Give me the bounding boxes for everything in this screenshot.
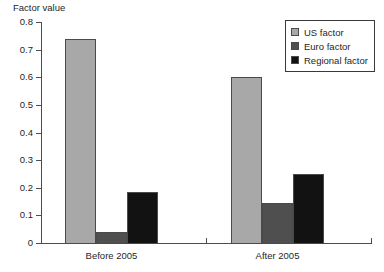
x-axis-group-separator-tick xyxy=(206,238,207,244)
bar-euro-factor-before-2005 xyxy=(96,232,127,244)
y-axis-tick-mark xyxy=(36,105,41,106)
y-axis-tick-label: 0.2 xyxy=(0,183,33,193)
y-axis-tick-label: 0.8 xyxy=(0,17,33,27)
legend-label-euro-factor: Euro factor xyxy=(304,41,350,52)
legend-item-regional-factor: Regional factor xyxy=(291,53,368,67)
y-axis-tick-mark xyxy=(36,50,41,51)
bar-regional-factor-before-2005 xyxy=(127,192,158,244)
y-axis-tick-label: 0.4 xyxy=(0,128,33,138)
legend-swatch-icon-euro-factor xyxy=(291,42,299,50)
y-axis-tick-label: 0.6 xyxy=(0,72,33,82)
legend-swatch-icon-us-factor xyxy=(291,28,299,36)
x-axis-label-after-2005: After 2005 xyxy=(228,250,328,261)
bar-chart: Factor value 00.10.20.30.40.50.60.70.8 B… xyxy=(0,0,384,272)
bar-us-factor-after-2005 xyxy=(231,77,262,244)
x-axis-label-before-2005: Before 2005 xyxy=(62,250,162,261)
y-axis-tick-mark xyxy=(36,160,41,161)
y-axis-tick-mark xyxy=(36,243,41,244)
bar-us-factor-before-2005 xyxy=(65,39,96,244)
legend-item-us-factor: US factor xyxy=(291,25,368,39)
y-axis-tick-label: 0.3 xyxy=(0,155,33,165)
y-axis-tick-mark xyxy=(36,188,41,189)
x-axis-end-tick xyxy=(371,238,372,244)
y-axis-tick-mark xyxy=(36,77,41,78)
y-axis-tick-mark xyxy=(36,22,41,23)
legend-label-us-factor: US factor xyxy=(304,27,344,38)
y-axis-tick-mark xyxy=(36,215,41,216)
y-axis-tick-label: 0.7 xyxy=(0,45,33,55)
legend-swatch-icon-regional-factor xyxy=(291,56,299,64)
bar-euro-factor-after-2005 xyxy=(262,203,293,244)
bar-regional-factor-after-2005 xyxy=(293,174,324,244)
y-axis-tick-mark xyxy=(36,133,41,134)
legend-item-euro-factor: Euro factor xyxy=(291,39,368,53)
y-axis-line xyxy=(41,22,42,244)
y-axis-tick-label: 0 xyxy=(0,238,33,248)
y-axis-tick-label: 0.5 xyxy=(0,100,33,110)
y-axis-tick-label: 0.1 xyxy=(0,210,33,220)
legend-label-regional-factor: Regional factor xyxy=(304,55,368,66)
chart-legend: US factor Euro factor Regional factor xyxy=(285,20,375,72)
